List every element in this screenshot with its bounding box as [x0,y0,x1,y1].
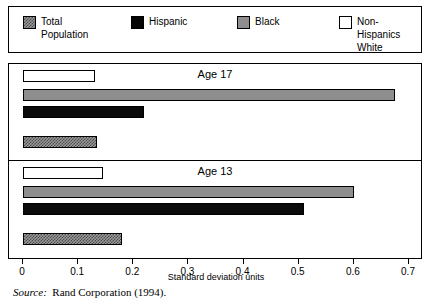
bars-age-13 [9,161,421,259]
bar-age-17-non-hispanics-white [23,70,95,82]
x-tick-2 [132,258,133,264]
x-tick-0 [22,258,23,264]
legend-item-0: Total Population [23,15,88,41]
gray-swatch-icon [237,16,250,29]
x-tick-5 [298,258,299,264]
chart-plot-area: Age 17 Age 13 [8,63,422,259]
black-swatch-icon [131,16,144,29]
panel-age-17: Age 17 [9,64,421,161]
legend: Total PopulationHispanicBlackNon-Hispani… [8,6,422,53]
legend-label-0: Total Population [41,15,88,41]
bar-age-17-total-population [23,136,97,148]
bar-age-13-non-hispanics-white [23,167,103,179]
bar-age-17-black [23,89,395,101]
x-tick-6 [353,258,354,264]
white-swatch-icon [339,16,352,29]
x-tick-4 [243,258,244,264]
x-tick-1 [77,258,78,264]
x-axis-title: Standard deviation units [0,272,432,283]
x-tick-3 [187,258,188,264]
source-note: Source: Rand Corporation (1994). [13,286,166,299]
legend-label-3: Non-Hispanics White [357,15,421,54]
x-axis: 00.10.20.30.40.50.60.7 [22,258,408,259]
legend-label-1: Hispanic [149,15,187,28]
source-text: Rand Corporation (1994). [52,286,166,298]
bar-age-17-hispanic [23,106,144,118]
legend-item-1: Hispanic [131,15,187,29]
x-tick-7 [408,258,409,264]
bar-age-13-hispanic [23,203,304,215]
bar-age-13-total-population [23,233,122,245]
legend-label-2: Black [255,15,279,28]
bars-age-17 [9,64,421,160]
legend-item-3: Non-Hispanics White [339,15,421,54]
source-label: Source: [13,286,47,298]
checker-swatch-icon [23,16,36,29]
bar-age-13-black [23,186,354,198]
panel-age-13: Age 13 [9,161,421,259]
legend-item-2: Black [237,15,279,29]
